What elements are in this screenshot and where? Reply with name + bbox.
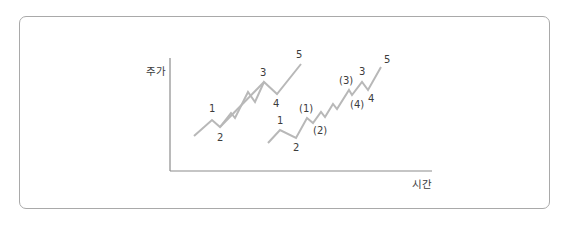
wave-left-label-5: 5 [296,49,302,60]
wave-left-label-3: 3 [260,67,266,78]
wave-right-label-1: 1 [277,115,283,126]
axes [170,58,432,171]
wave-left-wave3-straight [220,82,264,127]
wave-left-label-2: 2 [217,132,223,143]
wave-right-label-sub1: (1) [299,103,313,114]
wave-right-label-3: 3 [359,66,365,77]
wave-right-label-sub3: (3) [339,75,353,86]
wave-left-label-4: 4 [273,98,279,109]
wave-right-label-5: 5 [384,54,390,65]
wave-right-label-sub2: (2) [313,125,327,136]
y-axis-label: 주가 [146,65,166,77]
elliott-wave-diagram: 주가 시간 1 2 3 4 5 1 2 (1) (2) (3) 3 (4) 4 … [0,0,571,225]
wave-right-label-sub4: (4) [350,99,364,110]
wave-left [194,64,301,136]
wave-left-label-1: 1 [209,103,215,114]
wave-right-label-4: 4 [368,93,374,104]
x-axis-label: 시간 [412,178,432,190]
wave-right-label-2: 2 [293,142,299,153]
